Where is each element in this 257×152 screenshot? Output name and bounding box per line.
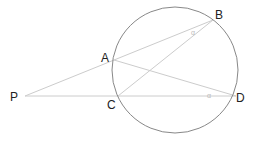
point-label-B: B <box>215 8 223 22</box>
point-label-C: C <box>107 98 116 112</box>
geometry-diagram: α α P A B C D <box>0 0 257 152</box>
segments <box>25 20 236 96</box>
angle-mark-D: α <box>207 92 211 99</box>
point-label-P: P <box>10 90 18 104</box>
point-label-A: A <box>101 51 109 65</box>
segment-PB <box>25 20 213 96</box>
circle <box>112 7 238 133</box>
segment-AD <box>114 60 236 96</box>
point-label-D: D <box>236 91 245 105</box>
angle-mark-B: α <box>191 29 195 36</box>
